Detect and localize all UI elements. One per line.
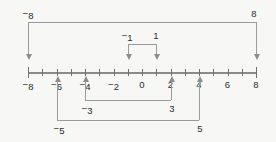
tick-3 — [185, 69, 186, 76]
bracket-label-positive-5: 5 — [197, 124, 202, 134]
bracket-8-left-arrowhead — [26, 54, 32, 60]
bracket-1-left-stem — [128, 44, 129, 54]
axis-label-6-value: 6 — [225, 79, 230, 90]
tick--2 — [114, 69, 115, 76]
bracket-5-right-stem — [199, 82, 200, 120]
bracket-label-negative-8-value: 8 — [28, 10, 33, 21]
tick-2 — [171, 69, 172, 76]
axis-label--8: −8 — [22, 80, 33, 92]
bracket-label-negative-5-value: 5 — [59, 125, 64, 136]
minus-sign-icon: − — [108, 80, 114, 90]
axis-label-8-value: 8 — [253, 79, 258, 90]
bracket-8-right-arrowhead — [254, 54, 260, 60]
tick--4 — [85, 69, 86, 76]
bracket-label-negative-3: −3 — [81, 104, 92, 116]
tick-7 — [242, 69, 243, 76]
axis-label-0: 0 — [139, 80, 144, 90]
bracket-5-horizontal — [57, 120, 199, 121]
bracket-label-negative-1-value: 1 — [127, 32, 132, 43]
tick-1 — [156, 69, 157, 76]
number-line-figure: −8 8 −1 1 −8−6−4−202468 −3 3 −5 5 — [0, 0, 276, 142]
bracket-label-positive-3: 3 — [169, 104, 174, 114]
minus-sign-icon: − — [53, 124, 59, 134]
bracket-1-right-arrowhead — [154, 54, 160, 60]
bracket-3-left-stem — [85, 82, 86, 100]
bracket-5-left-stem — [57, 82, 58, 120]
bracket-1-horizontal — [128, 44, 156, 45]
bracket-label-negative-5: −5 — [53, 124, 64, 136]
minus-sign-icon: − — [81, 104, 87, 114]
tick--1 — [128, 69, 129, 76]
bracket-1-left-arrowhead — [126, 54, 132, 60]
tick--6 — [57, 69, 58, 76]
bracket-label-positive-8: 8 — [251, 9, 256, 19]
bracket-3-right-stem — [171, 82, 172, 100]
axis-label--8-value: 8 — [28, 81, 33, 92]
tick-6 — [228, 69, 229, 76]
axis-label-0-value: 0 — [139, 79, 144, 90]
tick--3 — [99, 69, 100, 76]
tick--8 — [28, 67, 29, 78]
bracket-8-left-stem — [28, 22, 29, 54]
bracket-label-positive-3-value: 3 — [169, 103, 174, 114]
axis-label-8: 8 — [253, 80, 258, 90]
bracket-label-negative-8: −8 — [22, 9, 33, 21]
tick-5 — [213, 69, 214, 76]
bracket-label-positive-8-value: 8 — [251, 8, 256, 19]
tick--5 — [71, 69, 72, 76]
bracket-1-right-stem — [156, 44, 157, 54]
tick-8 — [256, 67, 257, 78]
axis-label--4-value: 4 — [85, 81, 90, 92]
tick--7 — [42, 69, 43, 76]
axis-label-6: 6 — [225, 80, 230, 90]
bracket-label-negative-1: −1 — [121, 31, 132, 43]
axis-label--2-value: 2 — [114, 81, 119, 92]
bracket-label-negative-3-value: 3 — [87, 105, 92, 116]
tick-0 — [142, 69, 143, 76]
minus-sign-icon: − — [22, 80, 28, 90]
bracket-label-positive-1-value: 1 — [153, 30, 158, 41]
bracket-8-right-stem — [256, 22, 257, 54]
minus-sign-icon: − — [22, 9, 28, 19]
bracket-3-horizontal — [85, 100, 171, 101]
axis-label--2: −2 — [108, 80, 119, 92]
tick-4 — [199, 69, 200, 76]
minus-sign-icon: − — [121, 31, 127, 41]
bracket-label-positive-1: 1 — [153, 31, 158, 41]
bracket-label-positive-5-value: 5 — [197, 123, 202, 134]
bracket-8-horizontal — [28, 22, 256, 23]
